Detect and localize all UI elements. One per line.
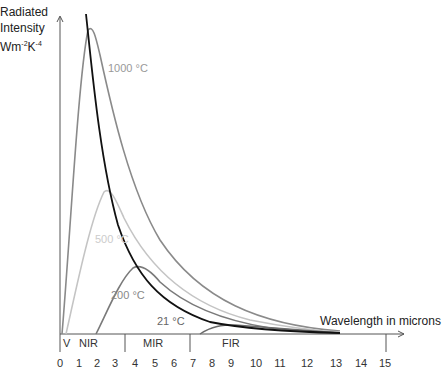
svg-text:11: 11 <box>274 357 285 369</box>
svg-text:7: 7 <box>190 357 196 369</box>
svg-text:8: 8 <box>209 357 215 369</box>
svg-text:1: 1 <box>76 357 82 369</box>
curve-1000c <box>62 29 340 334</box>
svg-text:9: 9 <box>228 357 234 369</box>
x-tick-labels: 0 1 2 3 4 5 6 7 8 9 10 11 12 13 14 15 <box>57 357 391 369</box>
band-fir: FIR <box>222 337 240 349</box>
label-1000c: 1000 °C <box>108 62 148 74</box>
svg-text:4: 4 <box>132 357 138 369</box>
svg-text:12: 12 <box>301 357 313 369</box>
svg-text:5: 5 <box>152 357 158 369</box>
svg-text:6: 6 <box>171 357 177 369</box>
svg-text:3: 3 <box>112 357 118 369</box>
label-200c: 200 °C <box>111 289 145 301</box>
band-mir: MIR <box>143 337 163 349</box>
label-500c: 500 °C <box>95 233 129 245</box>
svg-text:10: 10 <box>250 357 262 369</box>
y-axis <box>57 16 63 334</box>
svg-text:13: 13 <box>330 357 342 369</box>
svg-text:2: 2 <box>94 357 100 369</box>
x-axis-title: Wavelength in microns <box>320 314 441 328</box>
label-21c: 21 °C <box>157 315 185 327</box>
svg-text:14: 14 <box>355 357 367 369</box>
chart-canvas: 1000 °C 500 °C 200 °C 21 °C Wavelength i… <box>0 0 442 377</box>
band-nir: NIR <box>79 337 98 349</box>
svg-text:15: 15 <box>379 357 391 369</box>
svg-text:0: 0 <box>57 357 63 369</box>
band-v: V <box>63 337 71 349</box>
